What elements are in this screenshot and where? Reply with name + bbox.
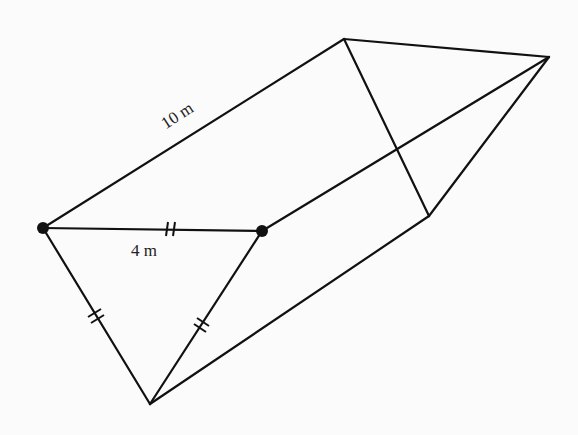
side-label: 4 m bbox=[131, 242, 157, 259]
vertex-dot-left bbox=[37, 222, 49, 234]
edge-front-top-4m bbox=[43, 228, 262, 231]
prism-diagram bbox=[0, 0, 578, 435]
edge-top-vertical bbox=[344, 39, 429, 216]
edge-right-back bbox=[429, 57, 549, 216]
edge-length-bottom bbox=[150, 216, 429, 404]
edge-length-middle bbox=[262, 57, 549, 231]
edge-top-back bbox=[344, 39, 549, 57]
edge-front-right bbox=[150, 231, 262, 404]
vertex-dot-middle bbox=[256, 225, 268, 237]
edge-length-10m bbox=[43, 39, 344, 228]
